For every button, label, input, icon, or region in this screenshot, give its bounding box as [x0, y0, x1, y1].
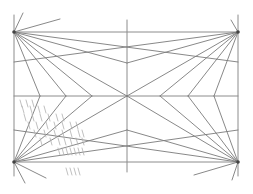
hatch-stroke — [24, 114, 26, 121]
fan-line-top-left — [14, 32, 66, 96]
fan-stub-top-right — [231, 20, 238, 32]
hatch-stroke — [48, 114, 50, 121]
fan-line-top-left — [14, 32, 127, 96]
hatch-stroke — [62, 122, 64, 129]
fan-stub-top-left — [14, 13, 23, 32]
hatch-stroke — [70, 130, 72, 137]
hatch-stroke — [70, 168, 72, 175]
hatch-stroke — [30, 106, 32, 113]
fan-line-top-right — [127, 32, 238, 96]
vanishing-point-top-left — [12, 30, 16, 34]
hatch-stroke — [66, 168, 68, 175]
hatch-stroke — [78, 148, 80, 155]
hatch-stroke — [82, 148, 84, 155]
hatch-stroke — [36, 122, 38, 129]
hatch-stroke — [32, 100, 34, 107]
hatch-stroke — [38, 106, 40, 113]
hatch-stroke — [26, 100, 28, 107]
vanishing-point-top-right — [236, 30, 240, 34]
fan-stub-bottom-left — [14, 162, 46, 178]
hatch-stroke — [70, 138, 72, 145]
hatch-stroke — [46, 122, 48, 129]
fan-line-bottom-right — [127, 130, 238, 162]
vanishing-point-bottom-right — [236, 160, 240, 164]
fan-line-top-left — [14, 32, 127, 63]
hatch-stroke — [64, 138, 66, 145]
fan-stub-bottom-right — [194, 162, 238, 175]
fan-line-top-right — [127, 32, 238, 63]
hatch-stroke — [66, 148, 68, 155]
fan-line-bottom-left — [14, 130, 127, 162]
fan-line-bottom-right — [127, 96, 238, 162]
hatch-stroke — [74, 168, 76, 175]
fan-line-top-left — [14, 32, 92, 96]
hatch-stroke — [22, 106, 24, 113]
hatch-stroke — [58, 138, 60, 145]
hatch-stroke — [56, 114, 58, 121]
hatch-stroke — [50, 138, 52, 145]
fan-line-top-left — [14, 32, 40, 96]
fan-line-bottom-left — [14, 96, 40, 162]
hatch-stroke — [82, 130, 84, 137]
fan-line-bottom-right — [188, 96, 238, 162]
hatch-stroke — [40, 114, 42, 121]
hatch-stroke — [78, 168, 80, 175]
hatch-stroke — [78, 130, 80, 137]
fan-line-top-right — [188, 32, 238, 96]
perspective-diagram — [0, 0, 253, 194]
vanishing-point-bottom-left — [12, 160, 16, 164]
hatch-stroke — [70, 122, 72, 129]
vanishing-fans — [14, 13, 238, 183]
fan-line-bottom-left — [14, 96, 127, 162]
hatch-stroke — [74, 148, 76, 155]
hatch-stroke — [62, 148, 64, 155]
hatch-stroke — [32, 114, 34, 121]
fan-stub-top-left — [14, 19, 60, 32]
hatch-stroke — [44, 106, 46, 113]
center-cross — [14, 20, 238, 172]
hatch-stroke — [82, 138, 84, 145]
fan-stub-bottom-right — [232, 162, 238, 180]
